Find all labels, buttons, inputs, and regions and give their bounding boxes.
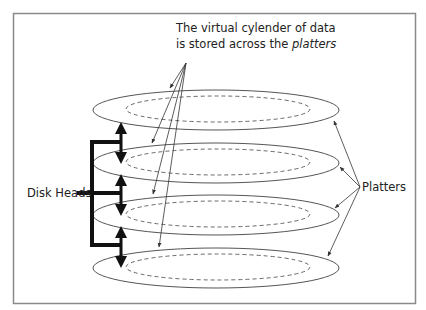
cylinder-track-2 — [126, 149, 310, 175]
platter-1 — [93, 90, 339, 130]
platters-pointer-arrows — [328, 121, 360, 256]
cylinder-caption-line2: is stored across the platters — [176, 37, 336, 51]
disk-cylinder-diagram: The virtual cylender of data is stored a… — [0, 0, 426, 310]
caption-prefix: is stored across the — [176, 37, 292, 51]
platter-3 — [93, 195, 339, 235]
platter-4 — [93, 248, 339, 288]
cylinder-track-4 — [126, 254, 310, 280]
diagram-frame — [14, 14, 416, 304]
cylinder-track-3 — [126, 201, 310, 227]
cylinder-track-1 — [126, 96, 310, 122]
platters-label: Platters — [362, 180, 406, 194]
caption-emphasis: platters — [291, 37, 336, 51]
cylinder-caption-line1: The virtual cylender of data — [175, 21, 336, 35]
disk-heads-label: Disk Heads — [27, 186, 91, 200]
platter-2 — [93, 143, 339, 183]
